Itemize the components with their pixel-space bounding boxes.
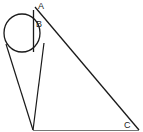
label-A: A (38, 1, 44, 11)
circle (4, 14, 40, 52)
label-C: C (124, 120, 131, 130)
line-AC (35, 7, 139, 130)
label-B: B (36, 19, 42, 29)
diagram-svg: A B C (0, 0, 143, 132)
cone-right-line (33, 43, 44, 130)
cone-left-line (6, 44, 33, 130)
geometry-diagram: A B C (0, 0, 143, 132)
